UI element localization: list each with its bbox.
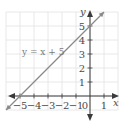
x-axis-label: x xyxy=(113,97,119,108)
x-tick-label: 0 xyxy=(82,100,88,111)
tick-labels: −5−4−3−2−10112345 xyxy=(13,21,108,112)
y-tick-label: 4 xyxy=(79,35,85,46)
x-tick-label: 1 xyxy=(101,100,107,111)
equation-annotation: y = x + 5 xyxy=(21,47,65,57)
coordinate-plane: −5−4−3−2−10112345 y = x + 5 x y xyxy=(0,0,124,126)
y-tick-label: 2 xyxy=(79,63,85,74)
x-tick-label: −2 xyxy=(55,100,70,111)
x-tick-label: −3 xyxy=(41,100,56,111)
data-series xyxy=(6,12,104,110)
line-series xyxy=(6,12,104,110)
y-axis-arrow-down-icon xyxy=(87,114,93,121)
x-tick-label: −4 xyxy=(27,100,42,111)
x-axis-arrow-left-icon xyxy=(8,93,15,99)
x-tick-label: −5 xyxy=(13,100,28,111)
y-axis-arrow-up-icon xyxy=(87,10,93,17)
y-axis-label: y xyxy=(79,6,86,17)
y-tick-label: 3 xyxy=(79,49,85,60)
y-tick-label: 5 xyxy=(79,21,85,32)
y-tick-label: 1 xyxy=(79,77,85,88)
